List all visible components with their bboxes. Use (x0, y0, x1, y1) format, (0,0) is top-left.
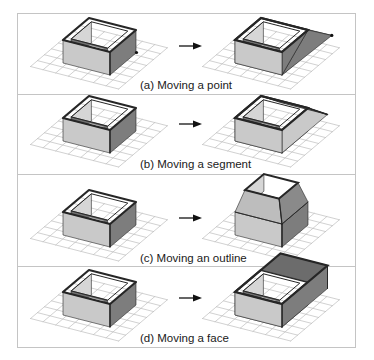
selected-point (135, 51, 138, 54)
caption-a: (a) Moving a point (140, 79, 233, 91)
box-before (31, 270, 168, 341)
panel-moving-face: (d) Moving a face (31, 254, 340, 345)
caption-d: (d) Moving a face (140, 332, 229, 344)
caption-b: (b) Moving a segment (140, 158, 252, 170)
moved-point (330, 34, 333, 37)
right-arrow-icon (179, 120, 202, 127)
arrow-head (193, 214, 202, 221)
right-arrow-icon (179, 42, 202, 49)
right-arrow-icon (179, 214, 202, 221)
arrow-head (193, 294, 202, 301)
figure: (a) Moving a point (b) Moving a segment … (0, 0, 374, 360)
front-face-extended (282, 108, 328, 153)
panel-moving-point: (a) Moving a point (31, 18, 340, 91)
box-before (31, 96, 168, 167)
panel-moving-segment: (b) Moving a segment (31, 96, 340, 170)
arrow-head (193, 120, 202, 127)
right-arrow-icon (179, 294, 202, 301)
caption-c: (c) Moving an outline (140, 252, 247, 264)
box-after-moving-segment (203, 96, 340, 167)
box-after-moving-outline (203, 174, 340, 261)
arrow-head (193, 42, 202, 49)
box-before (31, 190, 168, 261)
panel-moving-outline: (c) Moving an outline (31, 174, 340, 264)
